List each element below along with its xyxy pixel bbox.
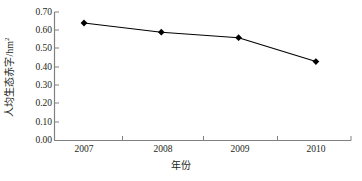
x-tick-label: 2010 bbox=[286, 144, 346, 155]
x-axis-tick-labels: 2007 2008 2009 2010 bbox=[0, 0, 362, 181]
x-tick-label: 2008 bbox=[133, 144, 193, 155]
x-axis-title: 年份 bbox=[0, 160, 362, 172]
x-tick-label: 2009 bbox=[210, 144, 270, 155]
x-tick-label: 2007 bbox=[54, 144, 114, 155]
chart-figure: 人均生态赤字/hm2 0.70 0.60 0.50 0.40 0.30 0.20… bbox=[0, 0, 362, 181]
